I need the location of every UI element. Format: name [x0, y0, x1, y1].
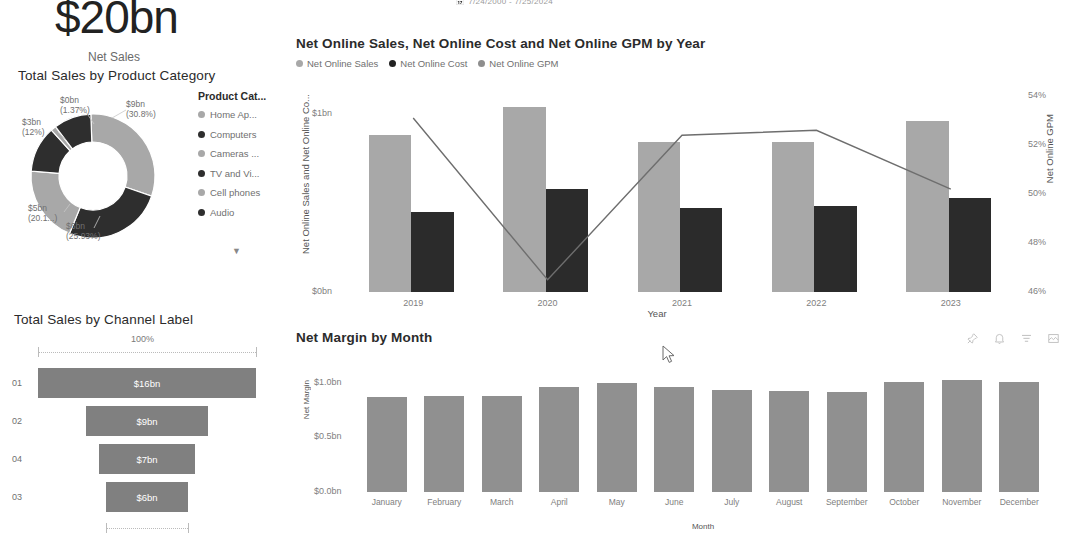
- month-x-tick: May: [588, 497, 646, 507]
- combo-y-tick-right: 46%: [1028, 286, 1046, 296]
- funnel-bar[interactable]: $6bn: [106, 482, 188, 512]
- combo-y-tick-right: 52%: [1028, 139, 1046, 149]
- funnel-stage-label: 02: [12, 416, 22, 426]
- funnel-bar-value: $7bn: [136, 454, 157, 465]
- month-bar[interactable]: [942, 380, 982, 492]
- month-chart-toolbar: [966, 332, 1060, 345]
- calendar-icon: 📅: [455, 0, 465, 6]
- month-bar[interactable]: [999, 382, 1039, 492]
- funnel-bar-value: $6bn: [136, 492, 157, 503]
- month-bar[interactable]: [654, 387, 694, 492]
- donut-legend-expand-chevron-down-icon[interactable]: ▼: [232, 246, 241, 256]
- filter-icon[interactable]: [1020, 332, 1033, 345]
- donut-legend-label: Cell phones: [210, 187, 260, 198]
- legend-swatch-icon: [478, 60, 485, 67]
- legend-swatch-icon: [198, 170, 205, 177]
- funnel-bottom-rule: [106, 528, 188, 529]
- donut-legend-item[interactable]: Cell phones: [198, 187, 290, 198]
- pin-icon[interactable]: [966, 332, 979, 345]
- combo-y-tick-right: 48%: [1028, 237, 1046, 247]
- month-y-tick: $1.0bn: [314, 377, 342, 387]
- combo-plot-area: $0bn$1bn46%48%50%52%54%20192020202120222…: [346, 96, 1018, 292]
- month-x-tick: January: [358, 497, 416, 507]
- legend-item-net-online-sales[interactable]: Net Online Sales: [296, 58, 378, 69]
- legend-swatch-icon: [198, 209, 205, 216]
- donut-chart[interactable]: $9bn(30.8%) $6bn(25.93%) $5bn(20.1...) $…: [8, 88, 198, 268]
- month-bar[interactable]: [424, 396, 464, 492]
- donut-slice-label-1: $6bn(25.93%): [66, 222, 101, 242]
- funnel-rule-cap: [38, 347, 39, 357]
- funnel-bar-value: $16bn: [134, 378, 160, 389]
- date-range-slicer[interactable]: 📅7/24/2000 - 7/25/2024: [455, 0, 553, 6]
- combo-chart-title: Net Online Sales, Net Online Cost and Ne…: [296, 36, 705, 51]
- combo-x-tick: 2023: [884, 298, 1018, 308]
- funnel-bar[interactable]: $7bn: [99, 444, 194, 474]
- month-bar[interactable]: [884, 382, 924, 492]
- month-bar[interactable]: [597, 383, 637, 492]
- donut-slice[interactable]: [91, 114, 155, 196]
- donut-legend-label: TV and Vi...: [210, 168, 259, 179]
- legend-swatch-icon: [198, 189, 205, 196]
- month-x-tick: April: [531, 497, 589, 507]
- funnel-chart[interactable]: 100%01$16bn02$9bn04$7bn03$6bn40%: [10, 334, 290, 534]
- donut-slice-label-3: $3bn(12%): [22, 118, 45, 138]
- funnel-bar-value: $9bn: [136, 416, 157, 427]
- month-chart-title: Net Margin by Month: [296, 330, 432, 345]
- date-range-value: 7/24/2000 - 7/25/2024: [468, 0, 553, 6]
- funnel-stage-label: 03: [12, 492, 22, 502]
- month-x-tick: August: [761, 497, 819, 507]
- month-bar[interactable]: [827, 392, 867, 492]
- month-bar[interactable]: [769, 391, 809, 492]
- combo-x-tick: 2020: [480, 298, 614, 308]
- combo-y-tick-left: $0bn: [312, 286, 332, 296]
- legend-item-net-online-cost[interactable]: Net Online Cost: [389, 58, 467, 69]
- combo-chart[interactable]: Net Online Sales, Net Online Cost and Ne…: [296, 36, 1056, 321]
- combo-y-axis-left-title: Net Online Sales and Net Online Co...: [300, 94, 311, 294]
- funnel-chart-title: Total Sales by Channel Label: [14, 312, 193, 327]
- month-x-tick: October: [876, 497, 934, 507]
- donut-legend-label: Cameras ...: [210, 148, 259, 159]
- donut-chart-title: Total Sales by Product Category: [18, 68, 216, 83]
- donut-legend-header: Product Cat...: [198, 90, 290, 102]
- kpi-net-sales-value: $20bn: [55, 0, 178, 40]
- funnel-bar[interactable]: $16bn: [38, 368, 256, 398]
- combo-x-tick: 2019: [346, 298, 480, 308]
- combo-gpm-line-layer: [346, 96, 1018, 292]
- month-x-tick: February: [416, 497, 474, 507]
- month-bar[interactable]: [367, 397, 407, 492]
- donut-slice-label-0: $9bn(30.8%): [126, 100, 156, 120]
- donut-legend-item[interactable]: Cameras ...: [198, 148, 290, 159]
- donut-legend-item[interactable]: Computers: [198, 129, 290, 140]
- funnel-top-percent: 100%: [131, 334, 154, 344]
- month-bar[interactable]: [482, 396, 522, 492]
- donut-legend-item[interactable]: Home Ap...: [198, 109, 290, 120]
- funnel-stage-label: 04: [12, 454, 22, 464]
- month-chart[interactable]: Net Margin $0.0bn$0.5bn$1.0bnJanuaryFebr…: [296, 352, 1056, 534]
- month-x-tick: March: [473, 497, 531, 507]
- combo-chart-legend: Net Online Sales Net Online Cost Net Onl…: [296, 58, 559, 69]
- legend-swatch-icon: [198, 131, 205, 138]
- legend-swatch-icon: [198, 150, 205, 157]
- donut-slice-label-4: $0bn(1.37%): [60, 96, 90, 116]
- alert-icon[interactable]: [993, 332, 1006, 345]
- combo-x-tick: 2022: [749, 298, 883, 308]
- donut-slice-label-2: $5bn(20.1...): [28, 204, 57, 224]
- donut-legend-label: Home Ap...: [210, 109, 257, 120]
- donut-legend-item[interactable]: TV and Vi...: [198, 168, 290, 179]
- month-x-tick: December: [991, 497, 1049, 507]
- month-bar[interactable]: [712, 390, 752, 492]
- month-x-axis-title: Month: [358, 522, 1048, 531]
- donut-svg: [8, 88, 198, 268]
- combo-y-tick-left: $1bn: [312, 108, 332, 118]
- kpi-net-sales-label: Net Sales: [88, 50, 140, 64]
- funnel-rule-cap: [106, 523, 107, 533]
- funnel-bar[interactable]: $9bn: [86, 406, 209, 436]
- combo-line-net-online-gpm[interactable]: [413, 118, 951, 280]
- donut-legend-label: Audio: [210, 207, 234, 218]
- focus-mode-icon[interactable]: [1047, 332, 1060, 345]
- donut-leader-line: [112, 110, 126, 118]
- month-bar[interactable]: [539, 387, 579, 492]
- donut-legend-item[interactable]: Audio: [198, 207, 290, 218]
- month-x-tick: June: [646, 497, 704, 507]
- legend-item-net-online-gpm[interactable]: Net Online GPM: [478, 58, 558, 69]
